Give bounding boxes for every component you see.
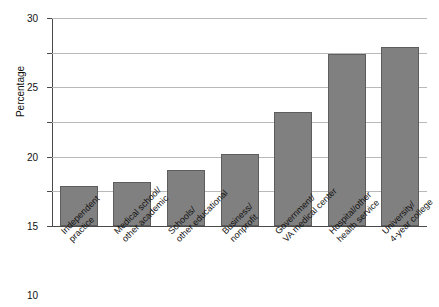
y-axis-tick-label: 25 bbox=[27, 82, 38, 93]
y-axis-tick-label: 30 bbox=[27, 13, 38, 24]
cropped-title-text bbox=[34, 0, 334, 6]
bar-chart: Percentage 051015202530 Independent prac… bbox=[0, 0, 439, 307]
y-axis-tick-label: 20 bbox=[27, 151, 38, 162]
y-axis-tick-label: 15 bbox=[27, 221, 38, 232]
y-axis-tick-label: 10 bbox=[27, 290, 38, 301]
y-axis-title: Percentage bbox=[15, 32, 26, 152]
x-axis-category-labels: Independent practiceMedical school/ othe… bbox=[52, 229, 439, 307]
